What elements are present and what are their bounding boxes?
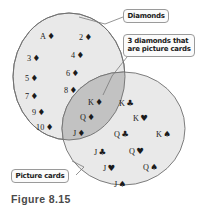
card-label: Q♠	[143, 163, 158, 172]
suit-club-icon: ♣	[121, 129, 129, 139]
card-rank: 5	[25, 74, 29, 83]
card-label: 6♦	[66, 69, 79, 78]
card-label: 8♦	[64, 86, 77, 95]
suit-club-icon: ♣	[99, 147, 107, 157]
venn-diagram-figure: A♦ 2♦ 3♦ 4♦ 5♦ 6♦ 7♦ 8♦ 9♦ 10♦ K♦ Q♦ J♦ …	[0, 0, 204, 208]
picture-cards-callout-label: Picture cards	[11, 169, 69, 183]
card-rank: Q	[80, 113, 86, 122]
suit-diamond-icon: ♦	[30, 91, 38, 101]
suit-diamond-icon: ♦	[87, 112, 95, 122]
card-rank: 4	[71, 51, 75, 60]
card-label: 9♦	[32, 108, 45, 117]
card-rank: Q	[114, 130, 120, 139]
card-rank: K	[156, 130, 162, 139]
suit-heart-icon: ♥	[108, 163, 116, 173]
card-label: K♠	[156, 130, 171, 139]
suit-diamond-icon: ♦	[47, 31, 55, 41]
suit-diamond-icon: ♦	[32, 53, 40, 63]
suit-diamond-icon: ♦	[30, 73, 38, 83]
intersection-callout-label: 3 diamonds that are picture cards	[123, 34, 195, 57]
suit-diamond-icon: ♦	[76, 50, 84, 60]
suit-spade-icon: ♠	[119, 179, 127, 189]
card-rank: 9	[32, 108, 36, 117]
card-rank: J	[94, 148, 97, 157]
suit-diamond-icon: ♦	[69, 85, 77, 95]
card-rank: K	[133, 114, 139, 123]
picture-cards-callout-text: Picture cards	[16, 172, 65, 180]
diamonds-callout-label: Diamonds	[123, 9, 169, 23]
intersection-callout-text-line1: 3 diamonds that	[128, 37, 189, 45]
card-label-intersection: K♦	[88, 98, 103, 107]
card-rank: J	[103, 164, 106, 173]
card-rank: Q	[143, 163, 149, 172]
card-label: K♥	[133, 114, 148, 123]
card-label: Q♥	[129, 147, 144, 156]
card-rank: 6	[66, 69, 70, 78]
card-label-intersection: J♦	[73, 129, 85, 138]
card-label: 5♦	[25, 74, 38, 83]
card-label: 7♦	[25, 92, 38, 101]
card-label: 10♦	[36, 123, 54, 132]
suit-diamond-icon: ♦	[46, 122, 54, 132]
card-rank: 2	[79, 33, 83, 42]
card-label: 3♦	[27, 54, 40, 63]
card-rank: J	[73, 129, 76, 138]
card-label: 2♦	[79, 33, 92, 42]
card-rank: 10	[36, 123, 45, 132]
figure-caption: Figure 8.15	[11, 193, 71, 205]
suit-diamond-icon: ♦	[71, 68, 79, 78]
diamonds-callout-text: Diamonds	[128, 12, 165, 20]
suit-club-icon: ♣	[126, 98, 134, 108]
card-rank: 8	[64, 86, 68, 95]
suit-diamond-icon: ♦	[84, 32, 92, 42]
card-label-intersection: Q♦	[80, 113, 95, 122]
card-label: A♦	[40, 32, 55, 41]
card-rank: 3	[27, 54, 31, 63]
card-label: Q♣	[114, 130, 129, 139]
card-rank: A	[40, 32, 46, 41]
card-rank: K	[119, 99, 125, 108]
card-rank: J	[114, 180, 117, 189]
card-rank: K	[88, 98, 94, 107]
card-rank: 7	[25, 92, 29, 101]
card-label: J♣	[94, 148, 106, 157]
card-rank: Q	[129, 147, 135, 156]
card-label: K♣	[119, 99, 134, 108]
suit-diamond-icon: ♦	[78, 128, 86, 138]
suit-heart-icon: ♥	[136, 146, 144, 156]
card-label: J♠	[114, 180, 126, 189]
card-label: 4♦	[71, 51, 84, 60]
suit-spade-icon: ♠	[163, 129, 171, 139]
intersection-callout-text-line2: are picture cards	[128, 45, 191, 54]
card-label: J♥	[103, 164, 115, 173]
suit-diamond-icon: ♦	[95, 97, 103, 107]
suit-spade-icon: ♠	[150, 162, 158, 172]
suit-diamond-icon: ♦	[37, 107, 45, 117]
suit-heart-icon: ♥	[140, 113, 148, 123]
